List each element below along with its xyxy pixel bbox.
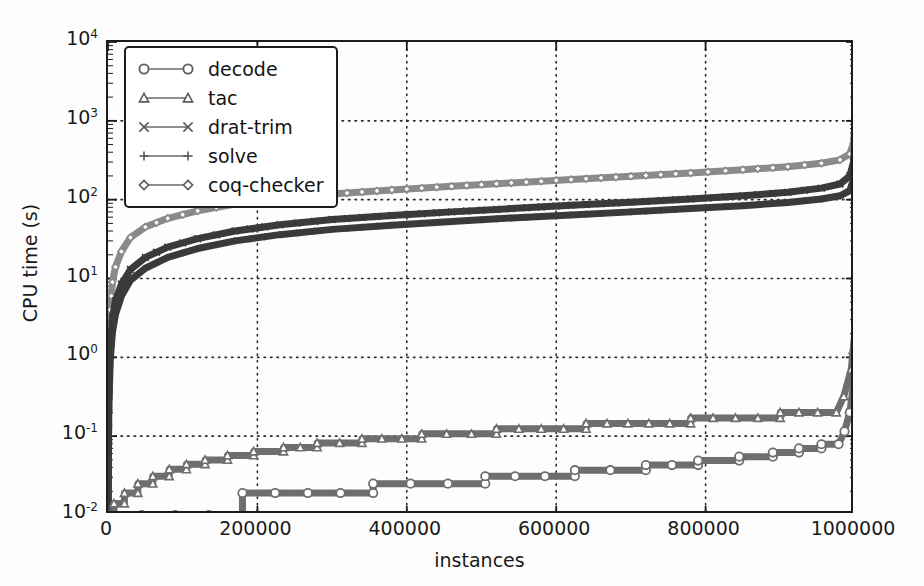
legend-item-drat-trim[interactable]: drat-trim (134, 112, 328, 141)
y-tick-label: 10-2 (62, 502, 98, 521)
plus-marker (134, 146, 198, 166)
y-tick-mantissa: 10 (66, 106, 90, 128)
x-tick-label: 1000000 (811, 519, 896, 538)
y-tick-mantissa: 10 (66, 185, 90, 207)
legend: decodetacdrat-trimsolvecoq-checker (124, 46, 338, 208)
y-tick-exponent: 1 (90, 263, 98, 277)
triangle-marker (134, 88, 198, 108)
y-tick-exponent: 0 (90, 342, 98, 356)
y-tick-label: 100 (66, 344, 98, 363)
y-tick-label: 101 (66, 266, 98, 285)
x-tick-label: 800000 (667, 519, 740, 538)
y-tick-mantissa: 10 (66, 264, 90, 286)
chart-figure: 10-210-1100101102103104 CPU time (s) 020… (0, 0, 924, 586)
circle-marker (134, 59, 198, 79)
x-tick-label: 400000 (369, 519, 442, 538)
legend-item-decode[interactable]: decode (134, 54, 328, 83)
y-tick-mantissa: 10 (66, 342, 90, 364)
y-tick-exponent: -1 (86, 421, 98, 435)
legend-label: tac (198, 87, 238, 109)
legend-label: coq-checker (198, 174, 323, 196)
legend-label: drat-trim (198, 116, 293, 138)
y-tick-mantissa: 10 (62, 421, 86, 443)
x-tick-label: 600000 (518, 519, 591, 538)
y-tick-exponent: 4 (90, 27, 98, 41)
legend-item-tac[interactable]: tac (134, 83, 328, 112)
y-tick-exponent: -2 (86, 500, 98, 514)
y-tick-exponent: 3 (90, 106, 98, 120)
legend-label: decode (198, 58, 278, 80)
series-decode (108, 369, 851, 511)
y-tick-label: 103 (66, 108, 98, 127)
x-tick-label: 200000 (219, 519, 292, 538)
legend-label: solve (198, 145, 258, 167)
y-axis-ticks: 10-210-1100101102103104 (0, 0, 98, 586)
x-axis-title: instances (106, 549, 853, 571)
legend-item-coq-checker[interactable]: coq-checker (134, 170, 328, 199)
y-tick-label: 10-1 (62, 423, 98, 442)
y-tick-mantissa: 10 (66, 27, 90, 49)
y-tick-label: 104 (66, 29, 98, 48)
diamond-marker (134, 175, 198, 195)
x-marker (134, 117, 198, 137)
y-tick-label: 102 (66, 187, 98, 206)
y-axis-title: CPU time (s) (19, 153, 41, 373)
y-tick-exponent: 2 (90, 184, 98, 198)
y-tick-mantissa: 10 (62, 500, 86, 522)
x-tick-label: 0 (100, 519, 112, 538)
legend-item-solve[interactable]: solve (134, 141, 328, 170)
